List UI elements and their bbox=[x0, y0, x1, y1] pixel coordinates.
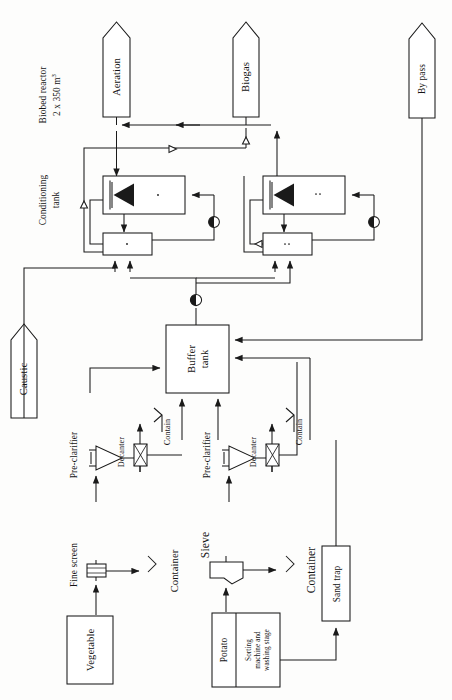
terminal-biogas-shape bbox=[233, 22, 259, 117]
process-flow-diagram: Aeration Biogas By pass Caustic Biobed r… bbox=[0, 0, 452, 700]
terminal-bypass-shape bbox=[409, 23, 435, 118]
terminal-aeration-shape bbox=[103, 22, 130, 117]
flow-diagram-canvas bbox=[0, 0, 452, 700]
